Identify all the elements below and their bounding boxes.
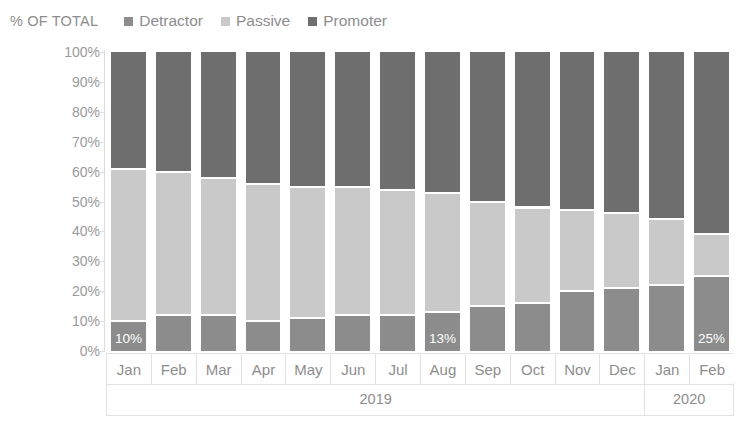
square-marker-icon <box>124 17 133 26</box>
x-axis-month-label[interactable]: Aug <box>420 354 465 384</box>
y-tick-mark <box>98 82 104 83</box>
y-tick-mark <box>98 321 104 322</box>
bar-column[interactable] <box>515 52 550 351</box>
bar-segment-promoter[interactable] <box>560 52 595 210</box>
x-axis-month-label[interactable]: Mar <box>196 354 241 384</box>
bar-segment-detractor[interactable] <box>560 291 595 351</box>
y-tick-mark <box>98 351 104 352</box>
bar-column[interactable] <box>470 52 505 351</box>
bar-segment-detractor[interactable]: 13% <box>425 312 460 351</box>
bar-segment-promoter[interactable] <box>246 52 281 184</box>
bar-segment-detractor[interactable]: 10% <box>111 321 146 351</box>
bar-segment-detractor[interactable] <box>380 315 415 351</box>
bar-segment-passive[interactable] <box>560 210 595 291</box>
bar-segment-passive[interactable] <box>604 213 639 288</box>
y-tick-label: 30% <box>38 254 100 268</box>
legend-label: Detractor <box>139 12 203 30</box>
bar-column[interactable] <box>649 52 684 351</box>
bar-segment-promoter[interactable] <box>649 52 684 219</box>
y-tick-label: 20% <box>38 284 100 298</box>
bar-segment-promoter[interactable] <box>335 52 370 187</box>
bar-segment-detractor[interactable] <box>201 315 236 351</box>
legend-item-passive[interactable]: Passive <box>221 12 290 30</box>
y-tick-mark <box>98 202 104 203</box>
x-axis-month-label[interactable]: Feb <box>151 354 196 384</box>
bar-segment-passive[interactable] <box>111 169 146 321</box>
bar-segment-promoter[interactable] <box>290 52 325 187</box>
bar-segment-value-label: 25% <box>698 332 725 346</box>
bar-column[interactable] <box>201 52 236 351</box>
bar-segment-detractor[interactable] <box>515 303 550 351</box>
x-axis-month-label[interactable]: Nov <box>555 354 600 384</box>
bar-segment-promoter[interactable] <box>380 52 415 190</box>
y-tick-mark <box>98 142 104 143</box>
bar-column[interactable]: 25% <box>694 52 729 351</box>
bar-segment-passive[interactable] <box>515 208 550 304</box>
bar-column[interactable]: 13% <box>425 52 460 351</box>
bar-segment-promoter[interactable] <box>111 52 146 169</box>
bar-column[interactable] <box>246 52 281 351</box>
legend-item-detractor[interactable]: Detractor <box>124 12 203 30</box>
x-axis-month-label[interactable]: Feb <box>689 354 734 384</box>
bar-column[interactable] <box>380 52 415 351</box>
y-tick-mark <box>98 112 104 113</box>
bar-segment-detractor[interactable] <box>290 318 325 351</box>
bar-column[interactable] <box>560 52 595 351</box>
bar-segment-detractor[interactable] <box>604 288 639 351</box>
bar-segment-promoter[interactable] <box>694 52 729 234</box>
y-tick-label: 100% <box>38 45 100 59</box>
x-axis-year-label[interactable]: 2020 <box>644 383 734 415</box>
legend-item-promoter[interactable]: Promoter <box>308 12 387 30</box>
bar-segment-value-label: 13% <box>429 332 456 346</box>
bar-segment-promoter[interactable] <box>604 52 639 213</box>
x-axis-years: 20192020 <box>106 383 734 416</box>
bar-column[interactable] <box>156 52 191 351</box>
y-tick-label: 90% <box>38 75 100 89</box>
bar-column[interactable] <box>335 52 370 351</box>
x-axis-month-label[interactable]: Jan <box>106 354 151 384</box>
legend-label: Promoter <box>323 12 387 30</box>
bar-segment-passive[interactable] <box>649 219 684 285</box>
y-tick-label: 80% <box>38 105 100 119</box>
bar-column[interactable] <box>290 52 325 351</box>
bar-segment-promoter[interactable] <box>470 52 505 202</box>
y-tick-mark <box>98 52 104 53</box>
bar-segment-promoter[interactable] <box>425 52 460 193</box>
bar-segment-passive[interactable] <box>201 178 236 316</box>
y-tick-mark <box>98 231 104 232</box>
bar-segment-passive[interactable] <box>290 187 325 319</box>
x-axis-month-label[interactable]: Oct <box>510 354 555 384</box>
x-axis-month-label[interactable]: Dec <box>599 354 644 384</box>
x-axis-month-label[interactable]: Apr <box>241 354 286 384</box>
bar-column[interactable] <box>604 52 639 351</box>
bar-segment-passive[interactable] <box>335 187 370 316</box>
bar-segment-detractor[interactable] <box>156 315 191 351</box>
x-axis-year-label[interactable]: 2019 <box>106 383 644 415</box>
bar-column[interactable]: 10% <box>111 52 146 351</box>
y-axis-line <box>104 50 105 352</box>
bar-segment-promoter[interactable] <box>156 52 191 172</box>
bar-segment-promoter[interactable] <box>515 52 550 207</box>
bar-segment-passive[interactable] <box>156 172 191 316</box>
bar-segment-detractor[interactable] <box>649 285 684 351</box>
bar-segment-promoter[interactable] <box>201 52 236 178</box>
bar-segment-detractor[interactable]: 25% <box>694 276 729 351</box>
y-tick-label: 70% <box>38 135 100 149</box>
y-axis-labels: 100%90%80%70%60%50%40%30%20%10%0% <box>38 42 100 352</box>
bar-segment-passive[interactable] <box>380 190 415 316</box>
bar-segment-passive[interactable] <box>694 234 729 276</box>
bar-segment-detractor[interactable] <box>335 315 370 351</box>
bar-segment-passive[interactable] <box>246 184 281 322</box>
chart-header: % OF TOTAL DetractorPassivePromoter <box>0 0 745 42</box>
bar-segment-passive[interactable] <box>425 193 460 313</box>
x-axis-month-label[interactable]: Jul <box>375 354 420 384</box>
y-tick-mark <box>98 291 104 292</box>
x-axis-month-label[interactable]: Jun <box>330 354 375 384</box>
square-marker-icon <box>308 17 317 26</box>
bar-segment-detractor[interactable] <box>470 306 505 351</box>
x-axis-month-label[interactable]: May <box>285 354 330 384</box>
x-axis-month-label[interactable]: Sep <box>465 354 510 384</box>
x-axis-month-label[interactable]: Jan <box>644 354 689 384</box>
bar-segment-detractor[interactable] <box>246 321 281 351</box>
bar-segment-passive[interactable] <box>470 202 505 307</box>
